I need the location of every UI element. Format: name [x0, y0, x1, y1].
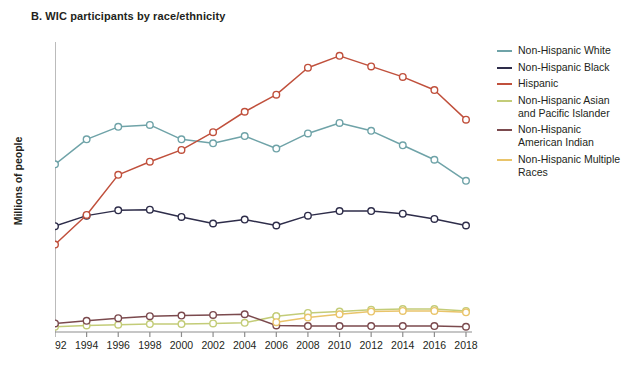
data-point-marker: [431, 308, 438, 315]
legend-item: Non-Hispanic White: [497, 44, 621, 57]
data-point-marker: [399, 323, 406, 330]
data-point-marker: [115, 172, 122, 179]
data-point-marker: [147, 321, 154, 328]
data-point-marker: [241, 108, 248, 115]
data-point-marker: [147, 122, 154, 129]
legend-item-label: Non-Hispanic Multiple Races: [518, 153, 621, 179]
data-point-marker: [178, 147, 185, 154]
data-point-marker: [305, 212, 312, 219]
x-axis-tick-label: 1994: [75, 339, 99, 351]
data-point-marker: [305, 64, 312, 71]
data-point-marker: [399, 74, 406, 81]
series-hispanic: [55, 53, 469, 248]
data-point-marker: [241, 311, 248, 318]
data-point-marker: [273, 145, 280, 152]
data-point-marker: [55, 161, 58, 168]
y-axis-label: Millions of people: [12, 111, 24, 251]
legend-item: Non-Hispanic Multiple Races: [497, 153, 621, 179]
data-point-marker: [115, 321, 122, 328]
data-point-marker: [336, 323, 343, 330]
legend-item: Non-Hispanic Black: [497, 61, 621, 74]
plot-area: 0123419921994199619982000200220042006200…: [55, 36, 480, 356]
legend-item-label: Hispanic: [518, 77, 558, 90]
data-point-marker: [55, 223, 58, 230]
data-point-marker: [210, 312, 217, 319]
legend-item: Hispanic: [497, 77, 621, 90]
x-axis-tick-label: 2014: [391, 339, 415, 351]
series-non-hispanic-black: [55, 206, 469, 229]
data-point-marker: [463, 323, 470, 330]
data-point-marker: [431, 323, 438, 330]
data-point-marker: [431, 216, 438, 223]
data-point-marker: [336, 311, 343, 318]
data-point-marker: [241, 133, 248, 140]
legend-swatch-icon: [497, 100, 512, 102]
x-axis-tick-label: 1992: [55, 339, 67, 351]
x-axis-tick-label: 2006: [265, 339, 289, 351]
data-point-marker: [241, 216, 248, 223]
line-chart-svg: 0123419921994199619982000200220042006200…: [55, 36, 480, 356]
data-point-marker: [178, 321, 185, 328]
legend-swatch-icon: [497, 50, 512, 52]
data-point-marker: [83, 212, 90, 219]
data-point-marker: [178, 214, 185, 221]
data-point-marker: [83, 136, 90, 143]
x-axis-tick-label: 2018: [454, 339, 478, 351]
x-axis-tick-label: 2004: [233, 339, 257, 351]
chart-legend: Non-Hispanic WhiteNon-Hispanic BlackHisp…: [497, 44, 621, 182]
data-point-marker: [336, 208, 343, 215]
x-axis-tick-label: 2016: [423, 339, 447, 351]
data-point-marker: [115, 124, 122, 131]
data-point-marker: [368, 208, 375, 215]
data-point-marker: [431, 156, 438, 163]
data-point-marker: [368, 323, 375, 330]
legend-swatch-icon: [497, 83, 512, 85]
legend-swatch-icon: [497, 67, 512, 69]
data-point-marker: [463, 177, 470, 184]
data-point-marker: [305, 314, 312, 321]
data-point-marker: [83, 318, 90, 325]
legend-item: Non-Hispanic American Indian: [497, 123, 621, 149]
page-title: B. WIC participants by race/ethnicity: [31, 10, 225, 22]
data-point-marker: [115, 207, 122, 214]
data-point-marker: [305, 323, 312, 330]
data-point-marker: [210, 320, 217, 327]
x-axis-tick-label: 2008: [296, 339, 320, 351]
data-point-marker: [336, 120, 343, 127]
data-point-marker: [399, 308, 406, 315]
x-axis-tick-label: 2000: [170, 339, 194, 351]
data-point-marker: [463, 116, 470, 123]
data-point-marker: [147, 313, 154, 320]
data-point-marker: [147, 158, 154, 165]
data-point-marker: [147, 206, 154, 213]
data-point-marker: [273, 222, 280, 229]
data-point-marker: [241, 319, 248, 326]
data-point-marker: [273, 91, 280, 98]
legend-swatch-icon: [497, 129, 512, 131]
data-point-marker: [399, 210, 406, 217]
data-point-marker: [178, 312, 185, 319]
x-axis-tick-label: 1996: [107, 339, 131, 351]
data-point-marker: [368, 308, 375, 315]
data-point-marker: [399, 142, 406, 149]
data-point-marker: [210, 220, 217, 227]
legend-item-label: Non-Hispanic White: [518, 44, 611, 57]
data-point-marker: [463, 309, 470, 316]
legend-item: Non-Hispanic Asian and Pacific Islander: [497, 94, 621, 120]
legend-item-label: Non-Hispanic Asian and Pacific Islander: [518, 94, 621, 120]
legend-swatch-icon: [497, 159, 512, 161]
data-point-marker: [178, 136, 185, 143]
data-point-marker: [431, 87, 438, 94]
x-axis-tick-label: 2002: [201, 339, 225, 351]
data-point-marker: [210, 129, 217, 136]
x-axis-tick-label: 2012: [359, 339, 383, 351]
data-point-marker: [336, 53, 343, 60]
data-point-marker: [368, 128, 375, 135]
legend-item-label: Non-Hispanic American Indian: [518, 123, 621, 149]
x-axis-tick-label: 1998: [138, 339, 162, 351]
data-point-marker: [463, 222, 470, 229]
data-point-marker: [210, 140, 217, 147]
legend-item-label: Non-Hispanic Black: [518, 61, 610, 74]
data-point-marker: [55, 241, 58, 248]
data-point-marker: [55, 320, 58, 327]
